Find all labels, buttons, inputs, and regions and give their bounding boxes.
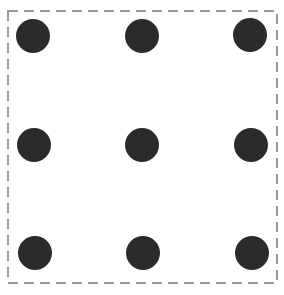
nine-dot-diagram (0, 0, 284, 295)
dot-grid (16, 18, 269, 270)
dot-r2-c0 (18, 236, 52, 270)
dot-r0-c0 (16, 19, 50, 53)
dot-r1-c0 (17, 128, 51, 162)
dot-r0-c2 (233, 18, 267, 52)
dot-r0-c1 (125, 19, 159, 53)
dot-r1-c2 (234, 128, 268, 162)
dot-r2-c2 (235, 236, 269, 270)
dot-r1-c1 (125, 128, 159, 162)
dot-r2-c1 (126, 236, 160, 270)
